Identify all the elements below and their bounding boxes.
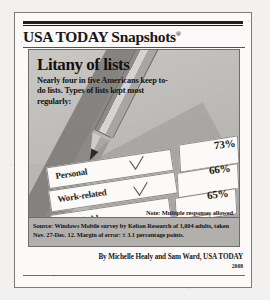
value-label: 66%: [208, 162, 230, 176]
value-label: 73%: [213, 137, 235, 151]
brand-rule-thick: [23, 21, 243, 24]
copyright-year: 2008: [21, 263, 243, 269]
checkmark-icon: [128, 155, 146, 173]
brand-title: USA TODAY Snapshots®: [23, 28, 245, 46]
byline: By Michelle Healy and Sam Ward, USA TODA…: [21, 253, 243, 261]
value-label: 65%: [206, 187, 228, 201]
source-bar: Source: Windows Mobile survey by Kelton …: [29, 217, 239, 246]
footer-rule: [23, 275, 245, 276]
registered-mark-icon: ®: [176, 30, 181, 38]
headline-block: Litany of lists Nearly four in five Amer…: [37, 56, 169, 107]
chart-panel: Personal Work-related Household Home rep…: [28, 49, 240, 247]
chart-note: Note: Multiple responses allowed: [146, 209, 233, 216]
chart-title: Litany of lists: [37, 56, 169, 73]
brand-underline: [23, 47, 245, 48]
chart-subtitle: Nearly four in five Americans keep to-do…: [37, 76, 169, 107]
infographic-card: USA TODAY Snapshots® Personal Work-relat…: [14, 12, 252, 288]
list-item-label: Work-related: [50, 188, 107, 206]
brand-rule-thin: [23, 25, 243, 26]
checkmark-icon: [132, 181, 150, 199]
brand-title-text: USA TODAY Snapshots: [23, 28, 176, 45]
snapshot-page: USA TODAY Snapshots® Personal Work-relat…: [0, 0, 270, 300]
list-item-label: Personal: [48, 168, 88, 183]
source-text: Source: Windows Mobile survey by Kelton …: [33, 222, 235, 239]
